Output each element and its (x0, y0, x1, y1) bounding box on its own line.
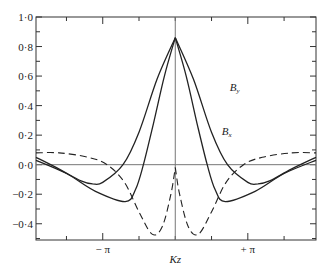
curve-bx (36, 38, 175, 202)
y-axis-tick-labels: 1·00·80·60·40·20·0−0·2−0·4 (12, 11, 33, 230)
x-tick-label: + π (241, 243, 256, 255)
series-labels: ByBx (222, 81, 241, 139)
series-label-by: By (230, 81, 241, 95)
y-tick-label: −0·4 (12, 218, 33, 230)
y-tick-label: 0·0 (18, 159, 33, 171)
curve-by (36, 38, 175, 185)
y-tick-label: 0·6 (18, 70, 33, 82)
series-label-bx: Bx (222, 125, 233, 139)
y-tick-label: −0·2 (12, 188, 33, 200)
data-curves (36, 38, 316, 235)
curve-bx (175, 38, 316, 202)
curve-by (175, 38, 316, 185)
axes-box (36, 17, 316, 240)
y-tick-label: 0·2 (18, 129, 33, 141)
y-tick-label: 1·0 (18, 11, 33, 23)
y-tick-label: 0·8 (18, 41, 33, 53)
axis-ticks (36, 17, 316, 240)
x-tick-label: − π (95, 243, 110, 255)
x-axis-title: Kz (168, 253, 181, 265)
y-tick-label: 0·4 (18, 100, 33, 112)
plot-frame (36, 17, 316, 240)
field-profile-chart: 1·00·80·60·40·20·0−0·2−0·4 − π+ π ByBx K… (0, 0, 319, 270)
